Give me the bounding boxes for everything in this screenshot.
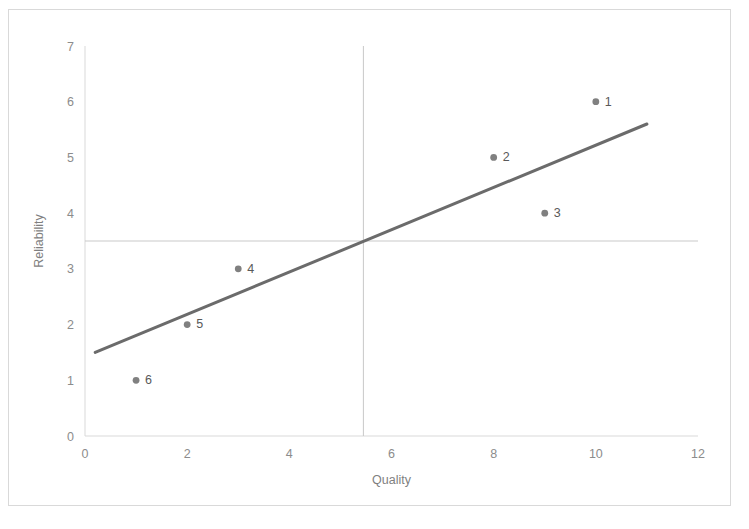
data-point-label: 6: [145, 373, 152, 387]
y-tick-label: 0: [67, 430, 74, 444]
x-axis-tick-labels: 024681012: [82, 447, 705, 461]
y-tick-label: 3: [67, 262, 74, 276]
x-axis-title: Quality: [372, 473, 412, 487]
y-axis-tick-labels: 01234567: [67, 40, 74, 444]
x-tick-label: 8: [490, 447, 497, 461]
y-axis-title: Reliability: [32, 214, 46, 268]
data-point-label: 1: [605, 95, 612, 109]
data-point-marker[interactable]: [184, 321, 191, 328]
x-tick-label: 12: [691, 447, 705, 461]
scatter-plot: 01234567 024681012 123456 Reliability Qu…: [9, 10, 730, 505]
data-point-marker[interactable]: [133, 377, 140, 384]
data-point-marker[interactable]: [541, 210, 548, 217]
x-tick-label: 10: [589, 447, 603, 461]
x-tick-label: 0: [82, 447, 89, 461]
trendline-segment: [95, 124, 647, 352]
y-tick-label: 4: [67, 207, 74, 221]
y-tick-label: 7: [67, 40, 74, 54]
data-point-marker[interactable]: [592, 98, 599, 105]
trendline: [95, 124, 647, 352]
data-point-marker[interactable]: [235, 265, 242, 272]
data-point-label: 5: [196, 317, 203, 331]
data-point-label: 3: [554, 206, 561, 220]
y-tick-label: 2: [67, 318, 74, 332]
data-point-label: 4: [247, 262, 254, 276]
data-point-label: 2: [503, 150, 510, 164]
y-tick-label: 1: [67, 374, 74, 388]
x-tick-label: 4: [286, 447, 293, 461]
x-tick-label: 2: [184, 447, 191, 461]
y-tick-label: 6: [67, 95, 74, 109]
data-point-marker[interactable]: [490, 154, 497, 161]
y-tick-label: 5: [67, 151, 74, 165]
x-tick-label: 6: [388, 447, 395, 461]
chart-frame: 01234567 024681012 123456 Reliability Qu…: [8, 9, 731, 506]
